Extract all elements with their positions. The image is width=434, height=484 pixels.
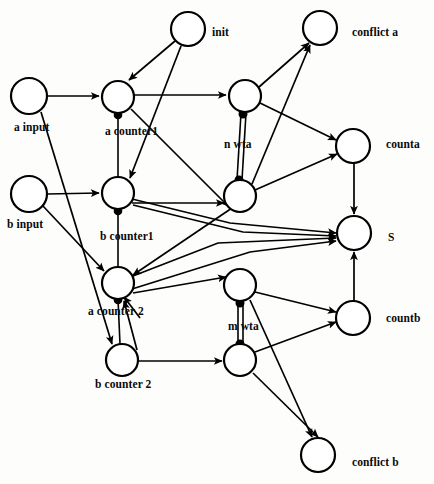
label-a-counter1: a counter1: [105, 126, 158, 138]
diagram-canvas: a input b input init a counter1 b counte…: [0, 0, 434, 484]
label-countb: countb: [386, 313, 420, 325]
label-b-counter2: b counter 2: [95, 379, 151, 391]
node-countb[interactable]: [336, 301, 370, 335]
edge-m-wta-top-to-countb: [255, 292, 336, 312]
node-a-counter1[interactable]: [102, 81, 134, 113]
node-a-counter2[interactable]: [102, 267, 134, 299]
node-m-wta-bot[interactable]: [224, 344, 256, 376]
node-n-wta-top[interactable]: [229, 80, 261, 112]
edge-n-wta-bot-to-counta: [255, 154, 337, 190]
edge-m-wta-top-to-conflict-b: [250, 300, 312, 437]
edge-a-counter1-cross-to-n-wta-bot: [131, 109, 228, 206]
label-init: init: [212, 27, 229, 39]
label-conflict-a: conflict a: [352, 27, 398, 39]
edges-layer: [41, 41, 354, 437]
label-a-input: a input: [14, 122, 50, 134]
edge-init-to-b-counter1: [130, 46, 181, 178]
node-b-input[interactable]: [11, 176, 47, 212]
node-b-counter1[interactable]: [102, 177, 134, 209]
edge-m-wta-bot-to-conflict-b: [253, 373, 318, 437]
label-m-wta: m wta: [228, 321, 259, 333]
node-n-wta-bot[interactable]: [224, 180, 256, 212]
label-b-input: b input: [7, 219, 43, 231]
node-conflict-b[interactable]: [301, 438, 335, 472]
node-S[interactable]: [337, 216, 371, 250]
edge-b-input-to-b-counter1: [47, 193, 99, 194]
edge-n-wta-bot-to-conflict-a: [252, 45, 310, 184]
node-b-counter2[interactable]: [106, 344, 138, 376]
node-counta[interactable]: [336, 129, 370, 163]
label-a-counter2: a counter 2: [88, 306, 144, 318]
edge-n-wta-top-to-counta: [260, 103, 336, 140]
edge-init-to-a-counter1: [129, 41, 175, 80]
node-a-input[interactable]: [11, 78, 47, 114]
node-conflict-a[interactable]: [303, 11, 337, 45]
nodes-layer: [11, 11, 371, 472]
label-conflict-b: conflict b: [352, 457, 399, 469]
label-b-counter1: b counter1: [100, 231, 154, 243]
label-counta: counta: [386, 139, 420, 151]
label-S: S: [388, 232, 395, 244]
network-graph: [0, 0, 434, 484]
label-n-wta: n wta: [224, 139, 252, 151]
node-m-wta-top[interactable]: [224, 269, 256, 301]
node-init[interactable]: [171, 12, 205, 46]
